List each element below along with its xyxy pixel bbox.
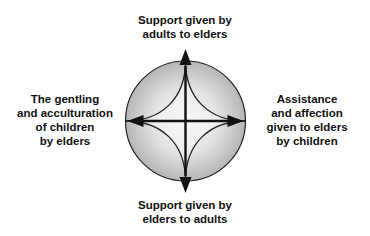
label-line: of children bbox=[2, 120, 128, 134]
label-right-assistance-from-children: Assistance and affection given to elders… bbox=[246, 92, 368, 148]
arrowhead-down-icon bbox=[180, 177, 192, 193]
label-bottom-support-elders-to-adults: Support given by elders to adults bbox=[110, 198, 260, 226]
label-line: and acculturation bbox=[2, 106, 128, 120]
label-top-support-adults-to-elders: Support given by adults to elders bbox=[110, 13, 260, 41]
label-line: adults to elders bbox=[110, 27, 260, 41]
label-line: Assistance bbox=[246, 92, 368, 106]
label-line: Support given by bbox=[110, 198, 260, 212]
arrowhead-up-icon bbox=[180, 49, 192, 65]
label-line: Support given by bbox=[110, 13, 260, 27]
label-line: and affection bbox=[246, 106, 368, 120]
label-line: by children bbox=[246, 134, 368, 148]
label-line: The gentling bbox=[2, 92, 128, 106]
label-left-gentling-of-children: The gentling and acculturation of childr… bbox=[2, 92, 128, 148]
label-line: by elders bbox=[2, 134, 128, 148]
label-line: given to elders bbox=[246, 120, 368, 134]
label-line: elders to adults bbox=[110, 212, 260, 226]
